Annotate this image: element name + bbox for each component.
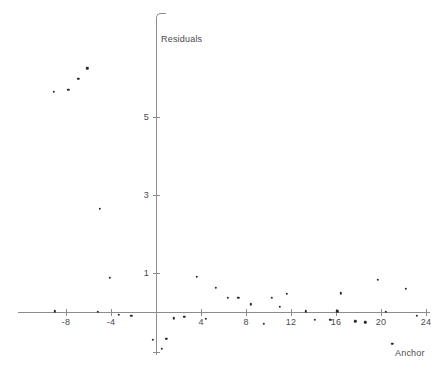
data-point: [416, 315, 418, 317]
x-tick-label-8: 8: [243, 317, 248, 327]
data-point: [130, 315, 132, 317]
x-tick-label-4: 4: [198, 317, 203, 327]
data-point: [165, 337, 167, 339]
data-point: [376, 279, 378, 281]
data-point: [271, 297, 273, 299]
x-tick-label-16: 16: [331, 317, 341, 327]
data-point: [339, 292, 341, 294]
y-tick-label-3: 3: [136, 190, 149, 200]
y-tick-3: [153, 195, 160, 196]
data-point: [99, 207, 101, 209]
x-tick-label-12: 12: [286, 317, 296, 327]
x-tick-8: [246, 309, 247, 316]
data-point: [160, 348, 162, 350]
data-point: [285, 293, 287, 295]
scatter-plot-figure: Residuals Anchor -8-44812162024 135: [0, 0, 448, 373]
data-point: [204, 317, 206, 319]
y-axis-line: [156, 19, 157, 355]
data-point: [227, 297, 229, 299]
y-tick-1: [153, 273, 160, 274]
x-tick-4: [201, 309, 202, 316]
data-point: [86, 67, 88, 69]
x-tick--8: [66, 309, 67, 316]
data-point: [313, 319, 315, 321]
data-point: [67, 88, 69, 90]
y-tick-5: [153, 117, 160, 118]
data-point: [263, 322, 265, 324]
y-axis-title: Residuals: [161, 34, 202, 44]
data-point: [237, 297, 239, 299]
data-point: [183, 316, 185, 318]
x-axis-title: Anchor: [395, 348, 425, 358]
data-point: [118, 314, 120, 316]
x-tick-12: [291, 309, 292, 316]
x-tick-20: [381, 309, 382, 316]
y-axis-top-cap: [156, 13, 166, 21]
data-point: [109, 276, 111, 278]
y-tick-label-1: 1: [136, 268, 149, 278]
data-point: [279, 305, 281, 307]
x-tick-label-20: 20: [376, 317, 386, 327]
data-point: [364, 321, 366, 323]
y-axis-bottom-tick: [153, 352, 160, 353]
x-tick--4: [111, 309, 112, 316]
data-point: [52, 90, 54, 92]
x-axis-line: [18, 312, 430, 313]
data-point: [214, 287, 216, 289]
data-point: [354, 320, 356, 322]
data-point: [391, 343, 393, 345]
data-point: [195, 276, 197, 278]
data-point: [77, 78, 79, 80]
x-tick-24: [426, 309, 427, 316]
x-tick-label--4: -4: [107, 317, 115, 327]
y-tick-label-5: 5: [136, 112, 149, 122]
data-point: [151, 339, 153, 341]
data-point: [173, 317, 175, 319]
data-point: [249, 303, 251, 305]
data-point: [405, 287, 407, 289]
x-tick-label--8: -8: [62, 317, 70, 327]
x-tick-label-24: 24: [421, 317, 431, 327]
